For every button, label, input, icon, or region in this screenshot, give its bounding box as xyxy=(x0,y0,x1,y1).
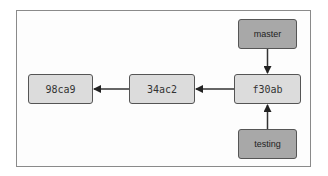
branch-name: master xyxy=(254,29,282,39)
commit-hash: 34ac2 xyxy=(147,84,177,95)
commit-hash: 98ca9 xyxy=(45,84,75,95)
commit-f30ab: f30ab xyxy=(234,74,301,104)
commit-98ca9: 98ca9 xyxy=(28,74,93,104)
branch-master: master xyxy=(238,19,297,49)
commit-34ac2: 34ac2 xyxy=(129,74,195,104)
commit-hash: f30ab xyxy=(252,84,282,95)
branch-name: testing xyxy=(254,139,281,149)
branch-testing: testing xyxy=(238,129,297,159)
